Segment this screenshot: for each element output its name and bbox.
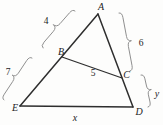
vertex-label-a: A [97,1,105,12]
length-label-ab: 4 [44,16,49,26]
vertex-label-e: E [11,102,18,113]
triangle-diagram: A B C D E 4 7 6 5 x y [0,0,163,125]
vertex-label-b: B [58,46,64,57]
length-label-bc: 5 [91,68,96,78]
brace-BE [3,58,32,100]
figure-labels: A B C D E 4 7 6 5 x y [6,1,160,123]
length-label-ac: 6 [139,38,144,48]
length-label-ed: x [72,112,78,123]
length-label-be: 7 [6,67,11,77]
side-AD [98,14,133,107]
vertex-label-d: D [134,106,143,117]
brace-AC [119,13,132,71]
figure-lines [20,14,133,107]
length-label-cd: y [154,88,160,99]
side-ED [20,106,133,107]
side-AE [20,14,98,106]
vertex-label-c: C [123,69,130,80]
measure-braces [3,10,151,107]
brace-CD [141,75,151,107]
geometry-figure: A B C D E 4 7 6 5 x y [0,0,163,125]
